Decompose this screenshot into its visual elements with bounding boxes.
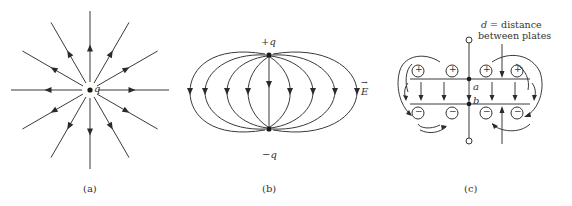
arrow-icon <box>51 67 59 73</box>
arrow-icon <box>45 87 52 93</box>
field-line <box>271 56 313 128</box>
minus-symbol: − <box>415 106 423 116</box>
negative-charge-label: −q <box>262 149 277 160</box>
point-a-dot <box>467 77 472 82</box>
positive-charge-dot <box>266 52 271 57</box>
minus-charges <box>412 107 523 119</box>
plus-symbol: + <box>415 64 423 74</box>
plus-symbol: + <box>483 64 491 74</box>
point-charge-dot <box>87 87 92 92</box>
distance-label-line2: between plates <box>478 30 551 41</box>
field-line <box>248 57 268 127</box>
plus-symbol: + <box>514 64 522 74</box>
field-line <box>270 57 290 127</box>
arrow-icon <box>67 51 73 59</box>
arrow-icon <box>107 51 113 59</box>
positive-charge-label: +q <box>261 36 276 47</box>
minus-symbol: − <box>514 106 522 116</box>
arrow-icon <box>266 81 272 88</box>
caption-a: (a) <box>83 183 97 194</box>
point-b-label: b <box>473 95 479 106</box>
arrow-icon <box>87 129 93 136</box>
point-b-dot <box>467 102 472 107</box>
field-label-E: E <box>361 86 368 97</box>
caption-c: (c) <box>464 183 477 194</box>
bottom-terminal <box>466 138 472 144</box>
arrow-icon <box>51 107 59 113</box>
point-a-label: a <box>473 81 479 92</box>
arrow-icon <box>87 45 93 52</box>
fringing-field-lines <box>398 44 542 144</box>
top-terminal <box>466 37 472 43</box>
field-line <box>272 55 335 129</box>
arrow-icon <box>122 67 130 73</box>
arrow-icon <box>129 87 136 93</box>
uniform-field-arrows <box>403 82 537 101</box>
arrow-icon <box>67 122 73 130</box>
minus-symbol: − <box>483 106 491 116</box>
caption-b: (b) <box>262 183 276 194</box>
field-line <box>205 55 266 129</box>
panel-c-capacitor <box>398 37 542 144</box>
panel-a-point-charge <box>11 11 169 169</box>
distance-text: = distance <box>487 19 542 30</box>
charge-label-q: q <box>94 83 100 94</box>
plus-symbol: + <box>449 64 457 74</box>
vector-arrow-icon: → <box>361 78 368 87</box>
distance-label: d = distance <box>481 19 542 30</box>
arrow-icons <box>187 88 360 95</box>
negative-charge-dot <box>266 126 271 131</box>
arrow-icon <box>122 107 130 113</box>
arrow-icon <box>107 122 113 130</box>
minus-symbol: − <box>449 106 457 116</box>
panel-b-dipole <box>187 52 360 132</box>
